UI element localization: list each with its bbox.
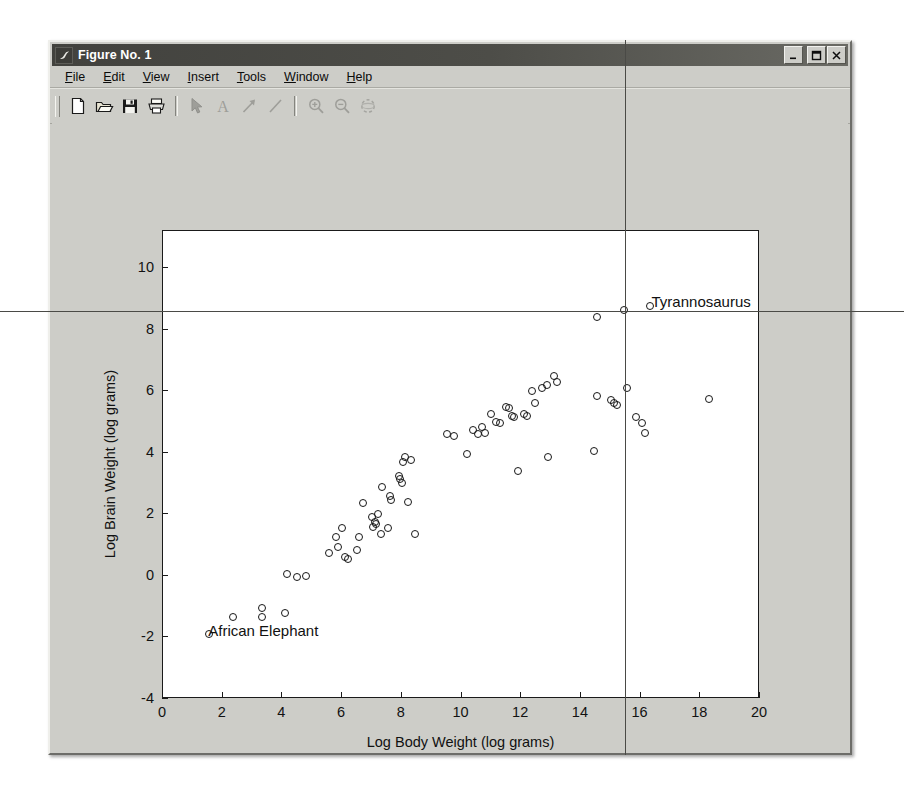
toolbar-separator-2 <box>294 96 297 116</box>
data-point <box>258 613 266 621</box>
menu-item-help[interactable]: Help <box>338 69 382 85</box>
svg-text:A: A <box>217 98 229 115</box>
x-axis-tick-label: 10 <box>452 704 468 720</box>
toolbar-grip[interactable] <box>55 96 60 117</box>
x-axis-tick <box>520 692 521 698</box>
data-point <box>463 450 471 458</box>
y-axis-tick-label: 2 <box>146 505 154 521</box>
y-axis-tick <box>162 513 168 514</box>
menu-item-insert-rest: nsert <box>191 70 219 84</box>
menu-item-view[interactable]: View <box>134 69 179 85</box>
y-axis-title-text: Log Brain Weight (log grams) <box>102 370 118 558</box>
menu-item-help-rest: elp <box>356 70 373 84</box>
insert-arrow-icon[interactable] <box>236 93 262 119</box>
data-point <box>593 392 601 400</box>
data-point <box>411 530 419 538</box>
data-point <box>359 499 367 507</box>
data-point <box>332 533 340 541</box>
data-point <box>283 570 291 578</box>
page-fold-horizontal-line <box>0 311 904 312</box>
data-point <box>638 419 646 427</box>
data-point <box>593 313 601 321</box>
data-point <box>325 549 333 557</box>
open-file-icon[interactable] <box>91 93 117 119</box>
data-point <box>407 456 415 464</box>
page-fold-vertical-line <box>625 40 626 755</box>
save-figure-icon[interactable] <box>117 93 143 119</box>
x-axis-tick-label: 6 <box>337 704 345 720</box>
x-axis-tick <box>401 692 402 698</box>
y-axis-tick <box>162 329 168 330</box>
data-point <box>481 429 489 437</box>
new-figure-icon[interactable] <box>65 93 91 119</box>
x-axis-tick <box>580 692 581 698</box>
rotate-3d-icon[interactable] <box>355 93 381 119</box>
data-point <box>510 413 518 421</box>
zoom-out-icon[interactable] <box>329 93 355 119</box>
zoom-in-icon[interactable] <box>303 93 329 119</box>
data-point <box>338 524 346 532</box>
data-point <box>353 546 361 554</box>
y-axis-tick <box>162 267 168 268</box>
x-axis-tick <box>759 692 760 698</box>
menu-bar: File Edit View Insert Tools Window Help <box>50 66 850 88</box>
data-point <box>514 467 522 475</box>
x-axis-tick <box>699 692 700 698</box>
y-axis-tick <box>162 390 168 391</box>
matlab-membrane-icon <box>55 47 73 64</box>
toolbar: A <box>50 88 850 124</box>
menu-item-tools[interactable]: Tools <box>228 69 275 85</box>
figure-window: Figure No. 1 File Edit View Insert Tools <box>48 40 852 755</box>
y-axis-tick-label: 10 <box>138 259 154 275</box>
minimize-button[interactable] <box>784 46 803 64</box>
window-title-bar[interactable]: Figure No. 1 <box>52 44 848 66</box>
y-axis-tick <box>162 698 168 699</box>
data-point <box>355 533 363 541</box>
data-point <box>404 498 412 506</box>
y-axis-tick-label: 6 <box>146 382 154 398</box>
menu-item-edit-rest: dit <box>112 70 125 84</box>
menu-item-edit[interactable]: Edit <box>94 69 134 85</box>
data-point <box>450 432 458 440</box>
x-axis-tick <box>640 692 641 698</box>
data-point <box>344 555 352 563</box>
data-point <box>374 510 382 518</box>
menu-item-insert[interactable]: Insert <box>179 69 228 85</box>
data-point <box>258 604 266 612</box>
x-axis-tick-label: 18 <box>691 704 707 720</box>
insert-line-icon[interactable] <box>262 93 288 119</box>
plot-annotation-label: Tyrannosaurus <box>652 293 751 310</box>
x-axis-tick-label: 2 <box>218 704 226 720</box>
window-controls <box>784 46 846 64</box>
x-axis-tick <box>461 692 462 698</box>
data-point <box>531 399 539 407</box>
data-point <box>543 381 551 389</box>
data-point <box>641 429 649 437</box>
data-point <box>398 479 406 487</box>
data-point <box>372 520 380 528</box>
y-axis-tick-label: -2 <box>141 628 154 644</box>
menu-item-window[interactable]: Window <box>275 69 337 85</box>
x-axis-tick-label: 12 <box>512 704 528 720</box>
data-point <box>281 609 289 617</box>
menu-item-file[interactable]: File <box>56 69 94 85</box>
y-axis-tick-label: 4 <box>146 444 154 460</box>
insert-text-icon[interactable]: A <box>210 93 236 119</box>
edit-plot-arrow-icon[interactable] <box>184 93 210 119</box>
y-axis-tick <box>162 575 168 576</box>
data-point <box>544 453 552 461</box>
data-point <box>384 524 392 532</box>
x-axis-tick-label: 14 <box>572 704 588 720</box>
x-axis-title: Log Body Weight (log grams) <box>162 734 759 750</box>
y-axis-tick <box>162 636 168 637</box>
toolbar-separator-1 <box>175 96 178 116</box>
data-point <box>613 401 621 409</box>
x-axis-tick-label: 16 <box>632 704 648 720</box>
close-button[interactable] <box>827 46 846 64</box>
data-point <box>334 543 342 551</box>
print-figure-icon[interactable] <box>143 93 169 119</box>
x-axis-tick-label: 0 <box>158 704 166 720</box>
x-axis-tick <box>341 692 342 698</box>
y-axis-tick <box>162 452 168 453</box>
maximize-button[interactable] <box>807 46 826 64</box>
